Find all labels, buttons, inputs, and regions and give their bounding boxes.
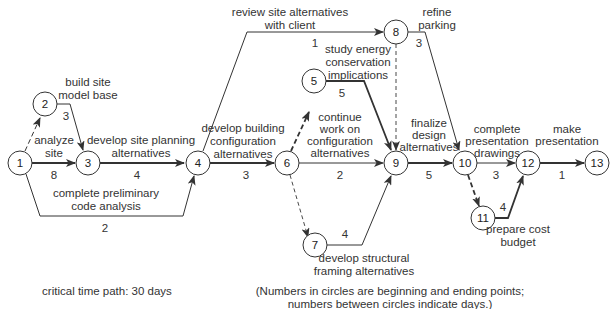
- days-10-12: 3: [493, 169, 499, 181]
- svg-text:5: 5: [311, 75, 317, 87]
- svg-text:4: 4: [195, 157, 202, 169]
- days-6-9: 2: [337, 169, 343, 181]
- days-7-9: 4: [342, 228, 349, 240]
- node-5: 5: [302, 69, 326, 93]
- svg-text:8: 8: [393, 26, 399, 38]
- days-1-4: 2: [102, 222, 108, 234]
- days-5-9: 5: [339, 87, 345, 99]
- node-1: 1: [8, 151, 32, 175]
- label-make-presentation: makepresentation: [535, 123, 598, 147]
- label-code-analysis: complete preliminarycode analysis: [53, 187, 159, 212]
- label-analyze-site: analyzesite: [34, 134, 74, 159]
- node-3: 3: [76, 151, 100, 175]
- svg-text:7: 7: [312, 239, 318, 251]
- svg-text:1: 1: [17, 157, 23, 169]
- critical-path-note: critical time path: 30 days: [42, 285, 172, 297]
- label-site-planning: develop site planningalternatives: [87, 134, 195, 159]
- days-8-10: 3: [416, 37, 422, 49]
- days-2-3: 3: [63, 110, 69, 122]
- days-11-12: 4: [500, 201, 507, 213]
- days-9-10: 5: [426, 169, 432, 181]
- days-3-4: 4: [134, 169, 141, 181]
- svg-text:6: 6: [284, 157, 290, 169]
- node-2: 2: [33, 92, 57, 116]
- node-8: 8: [384, 20, 408, 44]
- days-4-8: 1: [312, 37, 318, 49]
- edge-10-11: [468, 175, 479, 206]
- legend-note: (Numbers in circles are beginning and en…: [256, 285, 525, 309]
- svg-text:9: 9: [393, 157, 399, 169]
- days-1-3: 8: [51, 169, 57, 181]
- svg-text:2: 2: [42, 98, 48, 110]
- days-12-13: 1: [559, 169, 565, 181]
- svg-text:10: 10: [459, 157, 472, 169]
- label-cost-budget: prepare costbudget: [486, 223, 551, 248]
- label-building-config: develop buildingconfigurationalternative…: [201, 122, 284, 160]
- label-review-site: review site alternativeswith client: [232, 6, 349, 31]
- label-presentation-drawings: completepresentationdrawings: [465, 123, 528, 159]
- node-13: 13: [585, 151, 609, 175]
- label-structural: develop structuralframing alternatives: [314, 252, 415, 277]
- svg-text:12: 12: [522, 157, 535, 169]
- node-4: 4: [186, 151, 210, 175]
- label-continue-work: continuework onconfigurationalternatives: [307, 111, 373, 159]
- label-refine-parking: refineparking: [418, 6, 456, 31]
- footer: critical time path: 30 days (Numbers in …: [42, 285, 524, 309]
- node-6: 6: [275, 151, 299, 175]
- svg-text:3: 3: [85, 157, 91, 169]
- label-build-site: build sitemodel base: [58, 76, 117, 101]
- label-energy: study energyconservationimplications: [325, 43, 391, 81]
- days-4-6: 3: [243, 169, 249, 181]
- edge-6-7: [290, 175, 308, 237]
- svg-text:13: 13: [591, 157, 604, 169]
- edge-7-9: [327, 176, 391, 245]
- node-9: 9: [384, 151, 408, 175]
- cpm-diagram: 1 2 3 4 5 6 7 8 9 10 11 12 13 build site…: [0, 0, 613, 309]
- label-finalize: finalizedesignalternatives: [400, 117, 459, 153]
